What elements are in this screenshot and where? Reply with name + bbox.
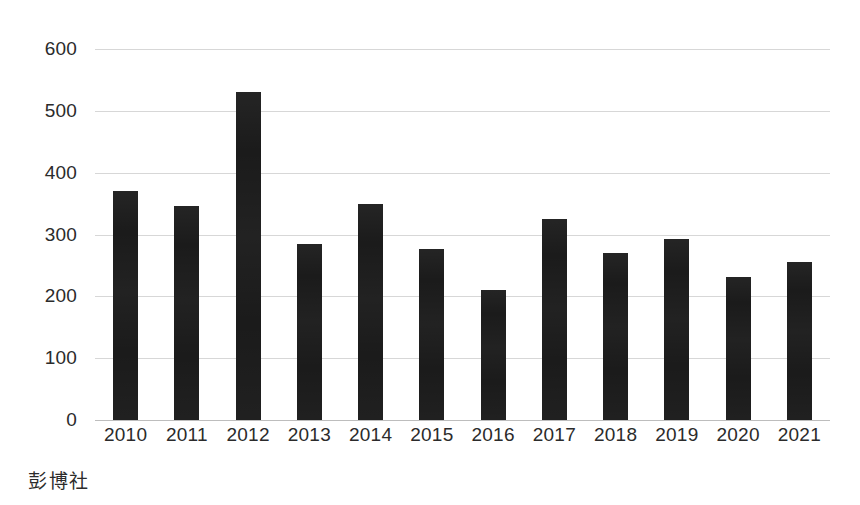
x-tick-label-2020: 2020 <box>717 424 760 446</box>
bar-2017 <box>542 219 567 420</box>
y-tick-label-600: 600 <box>45 38 77 60</box>
bar-2015 <box>419 249 444 420</box>
y-tick-label-400: 400 <box>45 162 77 184</box>
bar-2011 <box>174 206 199 420</box>
y-tick-label-500: 500 <box>45 100 77 122</box>
bar-2021 <box>787 262 812 420</box>
x-tick-label-2016: 2016 <box>472 424 515 446</box>
y-tick-label-0: 0 <box>66 409 77 431</box>
bar-2018 <box>603 253 628 420</box>
x-tick-label-2013: 2013 <box>288 424 331 446</box>
x-tick-label-2021: 2021 <box>778 424 821 446</box>
x-axis-labels: 2010201120122013201420152016201720182019… <box>95 424 830 454</box>
source-note: 彭博社 <box>28 466 90 493</box>
y-tick-label-200: 200 <box>45 285 77 307</box>
x-tick-label-2014: 2014 <box>349 424 392 446</box>
x-tick-label-2010: 2010 <box>104 424 147 446</box>
bars-layer <box>95 49 830 420</box>
y-tick-label-100: 100 <box>45 347 77 369</box>
x-tick-label-2015: 2015 <box>410 424 453 446</box>
bar-2020 <box>726 277 751 420</box>
y-tick-label-300: 300 <box>45 224 77 246</box>
y-axis-labels: 0100200300400500600 <box>0 0 95 505</box>
bar-2014 <box>358 204 383 420</box>
x-tick-label-2012: 2012 <box>227 424 270 446</box>
x-tick-label-2018: 2018 <box>594 424 637 446</box>
bar-chart-figure: 0100200300400500600 20102011201220132014… <box>0 0 860 505</box>
bar-2010 <box>113 191 138 420</box>
bar-2019 <box>664 239 689 420</box>
bar-2013 <box>297 244 322 420</box>
bar-2012 <box>236 92 261 420</box>
gridline-0 <box>95 420 830 421</box>
x-tick-label-2017: 2017 <box>533 424 576 446</box>
bar-2016 <box>481 290 506 420</box>
x-tick-label-2011: 2011 <box>166 424 208 446</box>
x-tick-label-2019: 2019 <box>655 424 698 446</box>
